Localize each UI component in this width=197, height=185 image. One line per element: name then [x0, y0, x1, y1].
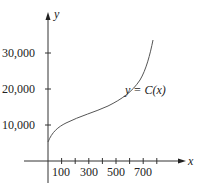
curve-label: y = C(x)	[125, 84, 166, 96]
x-tick-label-300: 300	[80, 166, 98, 178]
x-tick-label-500: 500	[107, 166, 125, 178]
y-axis-arrow-icon	[46, 12, 51, 20]
y-tick-label-10000: 10,000	[2, 119, 35, 131]
y-axis-label: y	[54, 8, 59, 20]
y-tick-label-30000: 30,000	[2, 47, 35, 59]
x-tick-label-700: 700	[134, 166, 152, 178]
x-tick-label-100: 100	[52, 166, 70, 178]
x-axis-arrow-icon	[178, 159, 186, 164]
x-axis-label: x	[188, 155, 193, 167]
y-tick-label-20000: 20,000	[2, 83, 35, 95]
